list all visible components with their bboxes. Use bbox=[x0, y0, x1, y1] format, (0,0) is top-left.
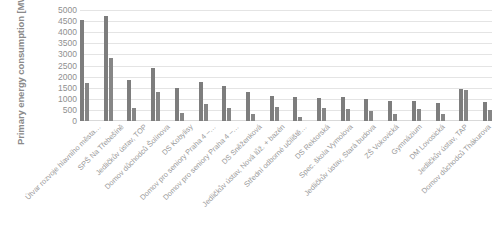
bar-group bbox=[246, 10, 255, 121]
y-axis-title: Primary energy consumption [MWh] bbox=[15, 0, 29, 145]
bar bbox=[204, 104, 208, 121]
bar bbox=[459, 89, 463, 121]
bar-group bbox=[364, 10, 373, 121]
y-tick-label: 500 bbox=[63, 106, 77, 114]
bar bbox=[104, 16, 108, 121]
y-tick-label: 4000 bbox=[58, 28, 77, 36]
bar bbox=[85, 83, 89, 121]
bar bbox=[156, 92, 160, 121]
bar bbox=[175, 88, 179, 121]
bar bbox=[275, 107, 279, 121]
y-tick-label: 3000 bbox=[58, 50, 77, 58]
bar-group bbox=[388, 10, 397, 121]
bar-group bbox=[104, 10, 113, 121]
bar-chart: Primary energy consumption [MWh] 5000450… bbox=[0, 0, 497, 246]
y-tick-label: 5000 bbox=[58, 6, 77, 14]
bar-group bbox=[222, 10, 231, 121]
bar bbox=[246, 92, 250, 121]
plot-area bbox=[80, 10, 492, 121]
bar bbox=[199, 82, 203, 121]
bar bbox=[127, 80, 131, 122]
bar-group bbox=[127, 10, 136, 121]
x-axis-tick-labels: Útvar rozvoje hlavního města…SPŠ Na Třeb… bbox=[80, 123, 492, 243]
bar bbox=[322, 108, 326, 121]
y-tick-label: 1000 bbox=[58, 95, 77, 103]
y-axis-tick-labels: 5000450040003500300025002000150010005000 bbox=[44, 10, 77, 121]
y-tick-label: 2000 bbox=[58, 73, 77, 81]
bar bbox=[151, 68, 155, 121]
bar-group bbox=[483, 10, 492, 121]
bar bbox=[222, 86, 226, 121]
y-tick-label: 2500 bbox=[58, 62, 77, 70]
bar-group bbox=[199, 10, 208, 121]
y-tick-label: 4500 bbox=[58, 17, 77, 25]
bar bbox=[464, 90, 468, 121]
bar bbox=[132, 108, 136, 121]
bar-group bbox=[317, 10, 326, 121]
bar bbox=[317, 98, 321, 121]
bar-groups bbox=[80, 10, 492, 121]
bar bbox=[109, 58, 113, 121]
bar bbox=[346, 109, 350, 121]
bar bbox=[412, 101, 416, 121]
bar-group bbox=[151, 10, 160, 121]
y-tick-label: 1500 bbox=[58, 84, 77, 92]
bar bbox=[80, 20, 84, 121]
bar bbox=[364, 99, 368, 121]
bar bbox=[341, 97, 345, 121]
bar-group bbox=[412, 10, 421, 121]
bar bbox=[483, 102, 487, 121]
bar-group bbox=[175, 10, 184, 121]
bar bbox=[270, 96, 274, 121]
bar bbox=[488, 110, 492, 121]
bar bbox=[298, 117, 302, 121]
bar-group bbox=[341, 10, 350, 121]
bar bbox=[369, 111, 373, 121]
bar-group bbox=[436, 10, 445, 121]
bar bbox=[388, 101, 392, 121]
bar bbox=[436, 103, 440, 121]
bar bbox=[251, 114, 255, 121]
bar bbox=[227, 108, 231, 121]
y-tick-label: 3500 bbox=[58, 39, 77, 47]
bar bbox=[417, 109, 421, 121]
bar bbox=[441, 114, 445, 121]
bar-group bbox=[80, 10, 89, 121]
bar-group bbox=[459, 10, 468, 121]
bar-group bbox=[293, 10, 302, 121]
bar-group bbox=[270, 10, 279, 121]
bar bbox=[293, 97, 297, 121]
bar bbox=[393, 114, 397, 121]
bar bbox=[180, 113, 184, 121]
y-tick-label: 0 bbox=[72, 117, 77, 125]
